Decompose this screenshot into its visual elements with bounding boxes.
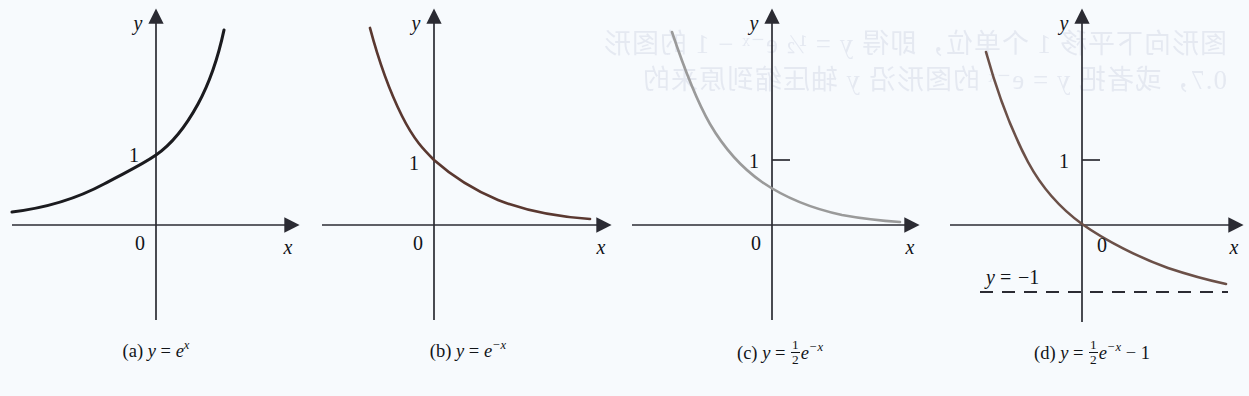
panel-a: 1 0 x y (a) y = ex	[0, 0, 312, 396]
caption-base: e	[484, 341, 492, 362]
panel-a-caption: (a) y = ex	[0, 338, 312, 362]
caption-base: e	[1099, 343, 1107, 364]
caption-exponent: −x	[492, 338, 506, 352]
panel-d-plot: 1 0 x y y = −1	[936, 0, 1249, 340]
caption-equals: =	[469, 341, 479, 362]
caption-lhs: y	[148, 341, 156, 362]
asymptote-label-y: y	[984, 266, 995, 289]
fraction-denominator: 2	[791, 353, 800, 367]
origin-label: 0	[1097, 234, 1107, 256]
panel-c-plot: 1 0 x y	[624, 0, 936, 340]
caption-fraction-one-half: 1 2	[791, 338, 800, 366]
caption-index: (d)	[1034, 343, 1056, 364]
asymptote-label-equals: =	[1000, 266, 1011, 288]
curve-half-exp-neg-x	[672, 32, 900, 222]
x-axis-label: x	[283, 236, 293, 258]
figure-root: 图形向下平移 1 个单位，即得 y = ½ e⁻ˣ − 1 的图形 0.7，或者…	[0, 0, 1249, 396]
caption-base: e	[176, 341, 184, 362]
panel-d-caption: (d) y = 1 2 e−x − 1	[936, 338, 1248, 366]
caption-equals: =	[161, 341, 171, 362]
panel-a-plot: 1 0 x y	[0, 0, 312, 340]
panel-c-caption: (c) y = 1 2 e−x	[624, 338, 936, 366]
x-axis-label: x	[905, 236, 915, 258]
panel-c: 1 0 x y (c) y = 1 2 e−x	[624, 0, 936, 396]
y-tick-label-1: 1	[749, 150, 759, 172]
caption-fraction-one-half: 1 2	[1089, 338, 1098, 366]
panel-b-caption: (b) y = e−x	[312, 338, 624, 362]
panel-b-plot: 1 0 x y	[312, 0, 624, 340]
fraction-denominator: 2	[1089, 353, 1098, 367]
caption-equals: =	[1073, 343, 1083, 364]
fraction-numerator: 1	[791, 338, 800, 353]
x-axis-label: x	[1229, 236, 1239, 258]
y-axis-label: y	[1058, 12, 1069, 35]
caption-base: e	[801, 343, 809, 364]
y-axis-label: y	[132, 12, 143, 35]
caption-index: (a)	[123, 341, 144, 362]
y-tick-label-1: 1	[129, 144, 139, 166]
y-tick-label-1: 1	[1059, 150, 1069, 172]
fraction-numerator: 1	[1089, 338, 1098, 353]
x-axis-label: x	[596, 236, 606, 258]
panel-b: 1 0 x y (b) y = e−x	[312, 0, 624, 396]
curve-exp-neg-x	[370, 28, 590, 219]
caption-lhs: y	[1060, 343, 1068, 364]
caption-equals: =	[775, 343, 785, 364]
y-axis-label: y	[410, 12, 421, 35]
asymptote-label-value: −1	[1018, 266, 1039, 288]
panel-row: 1 0 x y (a) y = ex	[0, 0, 1249, 396]
origin-label: 0	[751, 232, 761, 254]
caption-tail: − 1	[1126, 343, 1150, 364]
caption-exponent: −x	[809, 340, 823, 354]
y-tick-label-1: 1	[409, 152, 419, 174]
asymptote-label-group: y = −1	[984, 266, 1039, 289]
caption-index: (b)	[430, 341, 452, 362]
origin-label: 0	[413, 232, 423, 254]
y-axis-label: y	[748, 12, 759, 35]
caption-index: (c)	[737, 343, 758, 364]
caption-exponent: x	[184, 338, 190, 352]
caption-lhs: y	[762, 343, 770, 364]
caption-lhs: y	[456, 341, 464, 362]
origin-label: 0	[135, 232, 145, 254]
curve-exp-x	[12, 30, 224, 212]
caption-exponent: −x	[1107, 340, 1121, 354]
panel-d: 1 0 x y y = −1 (d) y = 1 2 e−x − 1	[936, 0, 1248, 396]
